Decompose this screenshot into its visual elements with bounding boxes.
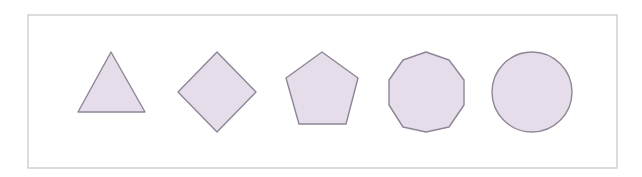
shapes-canvas: [0, 0, 642, 177]
shapes-figure: [0, 0, 642, 177]
decagon-shape: [389, 52, 464, 132]
circle-shape: [492, 52, 572, 132]
